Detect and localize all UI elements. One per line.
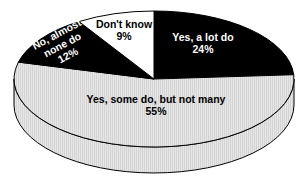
- slice-name-label: Yes, some do, but not many: [87, 93, 226, 105]
- slice-name-label: Yes, a lot do: [172, 31, 233, 43]
- slice-name-label: Don't know: [96, 18, 153, 30]
- slice-value-label: 55%: [145, 105, 167, 117]
- pie-slice-yes-a-lot-do: [154, 11, 294, 79]
- slice-value-label: 24%: [192, 43, 214, 55]
- slice-value-label: 9%: [116, 30, 132, 42]
- pie-chart: Yes, a lot do24%Yes, some do, but not ma…: [0, 0, 308, 191]
